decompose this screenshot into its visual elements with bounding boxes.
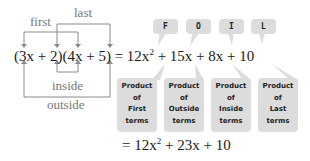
box-line: Last [258,104,298,116]
box-line: terms [258,116,298,128]
label-first: first [30,14,51,30]
box-line: Product [211,81,251,93]
label-last: last [74,5,92,21]
box-line: Inside [211,104,251,116]
box-line: First [117,104,157,116]
product-box-outside: Product of Outside terms [164,78,204,132]
product-box-last: Product of Last terms [258,78,298,132]
box-line: terms [211,116,251,128]
label-outside: outside [47,97,85,113]
box-line: of [211,93,251,105]
box-line: Product [164,81,204,93]
box-line: of [164,93,204,105]
equation-expansion-rest: + 15x + 8x + 10 [154,48,254,64]
box-line: Outside [164,104,204,116]
equation-lhs: (3x + 2)(4x + 5) [14,48,111,64]
product-box-first: Product of First terms [117,78,157,132]
box-line: terms [164,116,204,128]
equation-result-rest: + 23x + 10 [161,137,230,153]
tag-f: F [153,19,178,34]
product-box-inside: Product of Inside terms [211,78,251,132]
box-line: of [117,93,157,105]
box-line: Product [117,81,157,93]
box-line: terms [117,116,157,128]
tag-i: I [219,19,244,34]
box-line: of [258,93,298,105]
equation-expansion-prefix: = 12x [115,48,150,64]
tag-o: O [186,19,211,34]
box-line: Product [258,81,298,93]
tag-l: L [251,19,276,34]
equation-result: = 12x2 + 23x + 10 [122,136,231,154]
label-inside: inside [52,78,83,94]
equation-result-prefix: = 12x [122,137,157,153]
equation-expansion: (3x + 2)(4x + 5) = 12x2 + 15x + 8x + 10 [14,47,254,65]
